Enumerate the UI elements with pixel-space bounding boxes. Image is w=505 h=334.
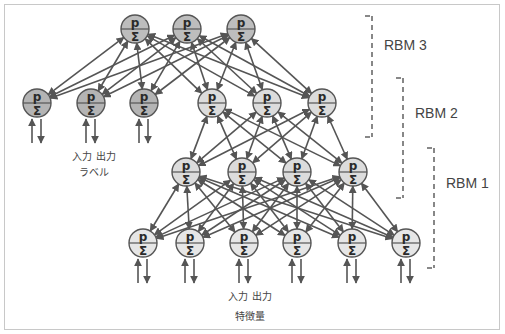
sum-symbol: Σ <box>263 104 271 118</box>
probability-symbol: p <box>240 230 249 244</box>
probability-symbol: p <box>139 230 148 244</box>
neuron-node-visible: pΣ <box>283 229 311 258</box>
connection-edge <box>278 112 342 163</box>
neuron-node-label: pΣ <box>77 89 105 118</box>
sum-symbol: Σ <box>293 244 301 258</box>
neuron-node-label: pΣ <box>23 89 51 118</box>
neuron-node-visible: pΣ <box>230 229 258 258</box>
probability-symbol: p <box>140 90 149 104</box>
rbm-label: RBM 2 <box>415 105 458 121</box>
sum-symbol: Σ <box>87 104 95 118</box>
probability-symbol: p <box>348 230 357 244</box>
probability-symbol: p <box>237 16 246 30</box>
rbm-label: RBM 3 <box>384 37 427 53</box>
probability-symbol: p <box>182 159 191 173</box>
deep-belief-network-diagram: pΣpΣpΣpΣpΣpΣpΣpΣpΣpΣpΣpΣpΣpΣpΣpΣpΣpΣpΣ R… <box>0 0 505 334</box>
sum-symbol: Σ <box>139 244 147 258</box>
neuron-node-top: pΣ <box>227 15 255 44</box>
sum-symbol: Σ <box>402 244 410 258</box>
sum-symbol: Σ <box>183 30 191 44</box>
probability-symbol: p <box>87 90 96 104</box>
neuron-node-visible: pΣ <box>338 229 366 258</box>
probability-symbol: p <box>131 16 140 30</box>
neuron-node-visible: pΣ <box>392 229 420 258</box>
neuron-node-hidden2: pΣ <box>253 89 281 118</box>
sum-symbol: Σ <box>182 173 190 187</box>
sum-symbol: Σ <box>186 244 194 258</box>
probability-symbol: p <box>318 90 327 104</box>
connection-edge <box>361 183 397 232</box>
connection-edge <box>328 116 348 159</box>
sum-symbol: Σ <box>238 173 246 187</box>
neuron-node-hidden1: pΣ <box>283 158 311 187</box>
sum-symbol: Σ <box>348 244 356 258</box>
neuron-node-hidden1: pΣ <box>172 158 200 187</box>
neuron-node-hidden1: pΣ <box>339 158 367 187</box>
probability-symbol: p <box>263 90 272 104</box>
connection-edge <box>223 112 286 163</box>
sum-symbol: Σ <box>349 173 357 187</box>
sum-symbol: Σ <box>131 30 139 44</box>
connection-edge <box>150 184 178 231</box>
connection-edge <box>98 41 128 91</box>
probability-symbol: p <box>33 90 42 104</box>
neuron-node-top: pΣ <box>173 15 201 44</box>
connection-edges <box>48 34 397 239</box>
connection-edge <box>218 116 237 159</box>
neuron-node-hidden1: pΣ <box>228 158 256 187</box>
sum-symbol: Σ <box>208 104 216 118</box>
connection-edge <box>191 116 207 159</box>
sum-symbol: Σ <box>237 30 245 44</box>
probability-symbol: p <box>183 16 192 30</box>
feature-name-caption: 特徴量 <box>235 310 265 322</box>
label-name-caption: ラベル <box>79 167 109 178</box>
connection-edge <box>199 36 309 97</box>
probability-symbol: p <box>293 230 302 244</box>
neuron-node-visible: pΣ <box>176 229 204 258</box>
sum-symbol: Σ <box>293 173 301 187</box>
probability-symbol: p <box>238 159 247 173</box>
label-io-caption: 入力 出力 <box>72 150 115 162</box>
rbm-bracket-1: RBM 1 <box>427 148 489 268</box>
probability-symbol: p <box>349 159 358 173</box>
feature-io-caption: 入力 出力 <box>228 290 271 302</box>
neuron-node-visible: pΣ <box>129 229 157 258</box>
sum-symbol: Σ <box>140 104 148 118</box>
neuron-node-label: pΣ <box>130 89 158 118</box>
sum-symbol: Σ <box>318 104 326 118</box>
sum-symbol: Σ <box>240 244 248 258</box>
probability-symbol: p <box>208 90 217 104</box>
sum-symbol: Σ <box>33 104 41 118</box>
neuron-node-hidden2: pΣ <box>308 89 336 118</box>
probability-symbol: p <box>293 159 302 173</box>
connection-edge <box>147 36 255 96</box>
rbm-brackets: RBM 3RBM 2RBM 1 <box>365 16 489 268</box>
neuron-node-top: pΣ <box>121 15 149 44</box>
probability-symbol: p <box>186 230 195 244</box>
rbm-label: RBM 1 <box>446 175 489 191</box>
probability-symbol: p <box>402 230 411 244</box>
connection-edge <box>148 34 309 98</box>
neuron-node-hidden2: pΣ <box>198 89 226 118</box>
